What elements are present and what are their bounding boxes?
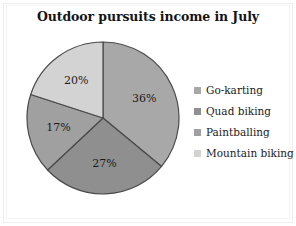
legend-item-label: Quad biking bbox=[206, 106, 271, 117]
legend-swatch-icon bbox=[194, 108, 201, 115]
chart-legend: Go-kartingQuad bikingPaintballingMountai… bbox=[194, 80, 294, 164]
legend-item-label: Go-karting bbox=[206, 85, 263, 96]
legend-item[interactable]: Go-karting bbox=[194, 80, 294, 101]
pie-slice-value-label: 17% bbox=[46, 121, 70, 134]
legend-item[interactable]: Mountain biking bbox=[194, 143, 294, 164]
pie-slice-value-label: 36% bbox=[132, 92, 156, 105]
legend-swatch-icon bbox=[194, 150, 201, 157]
pie-slice-value-label: 20% bbox=[64, 74, 88, 87]
chart-title: Outdoor pursuits income in July bbox=[0, 9, 296, 24]
legend-swatch-icon bbox=[194, 87, 201, 94]
legend-item[interactable]: Quad biking bbox=[194, 101, 294, 122]
pie-slice-value-label: 27% bbox=[92, 157, 116, 170]
legend-item-label: Paintballing bbox=[206, 127, 270, 138]
pie-slice-group bbox=[27, 42, 179, 194]
legend-item[interactable]: Paintballing bbox=[194, 122, 294, 143]
legend-item-label: Mountain biking bbox=[206, 148, 294, 159]
pie-chart-figure: Outdoor pursuits income in July 36%27%17… bbox=[0, 0, 296, 226]
figure-background: Outdoor pursuits income in July 36%27%17… bbox=[0, 0, 296, 226]
pie-chart-plot-area: 36%27%17%20% bbox=[25, 40, 181, 196]
legend-swatch-icon bbox=[194, 129, 201, 136]
pie-chart-svg: 36%27%17%20% bbox=[25, 40, 181, 196]
